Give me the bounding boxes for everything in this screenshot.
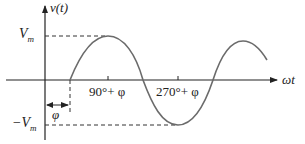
vmin-text: −V	[12, 115, 30, 130]
vmax-label: Vm	[19, 26, 34, 44]
vmin-label: −Vm	[12, 115, 37, 133]
y-axis-label: v(t)	[50, 0, 68, 16]
tick-270-label: 270°+ φ	[156, 84, 199, 100]
phase-label: φ	[52, 107, 59, 123]
vmax-text: V	[19, 26, 28, 41]
tick-90-label: 90°+ φ	[89, 84, 125, 100]
x-axis-label: ωt	[282, 72, 295, 88]
vmax-sub: m	[28, 34, 35, 44]
diagram-canvas	[0, 0, 305, 144]
vmin-sub: m	[30, 123, 37, 133]
sine-wave-diagram: v(t) ωt Vm −Vm 90°+ φ 270°+ φ φ	[0, 0, 305, 144]
